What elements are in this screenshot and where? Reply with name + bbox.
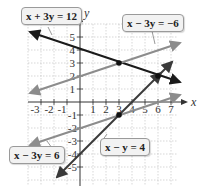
svg-text:5: 5 — [70, 31, 76, 43]
svg-text:1: 1 — [90, 103, 96, 115]
svg-text:7: 7 — [168, 103, 174, 115]
y-axis-label: y — [83, 6, 90, 20]
label-line-x-minus-3y-eq-neg6: x − 3y = −6 — [122, 14, 184, 32]
svg-text:3: 3 — [70, 57, 76, 69]
svg-text:-1: -1 — [68, 109, 77, 121]
svg-text:5: 5 — [142, 103, 148, 115]
svg-text:-3: -3 — [68, 135, 78, 147]
svg-text:2: 2 — [103, 103, 109, 115]
svg-text:-1: -1 — [57, 103, 66, 115]
svg-text:-3: -3 — [30, 103, 40, 115]
label-line-x-minus-y-eq-4: x − y = 4 — [100, 138, 150, 156]
svg-text:1: 1 — [70, 83, 76, 95]
label-line-x-minus-3y-eq-6: x − 3y = 6 — [9, 146, 65, 164]
x-axis-label: x — [190, 95, 197, 109]
label-line-x-plus-3y-eq-12: x + 3y = 12 — [21, 7, 82, 25]
svg-text:-2: -2 — [44, 103, 53, 115]
intersection-point-6-2 — [155, 73, 161, 79]
intersection-point-3-3 — [116, 60, 122, 66]
intersection-point-3-neg1 — [116, 112, 122, 118]
svg-text:6: 6 — [155, 103, 161, 115]
svg-text:-5: -5 — [68, 161, 78, 173]
line-x-minus-3y-eq-neg6 — [30, 43, 180, 93]
